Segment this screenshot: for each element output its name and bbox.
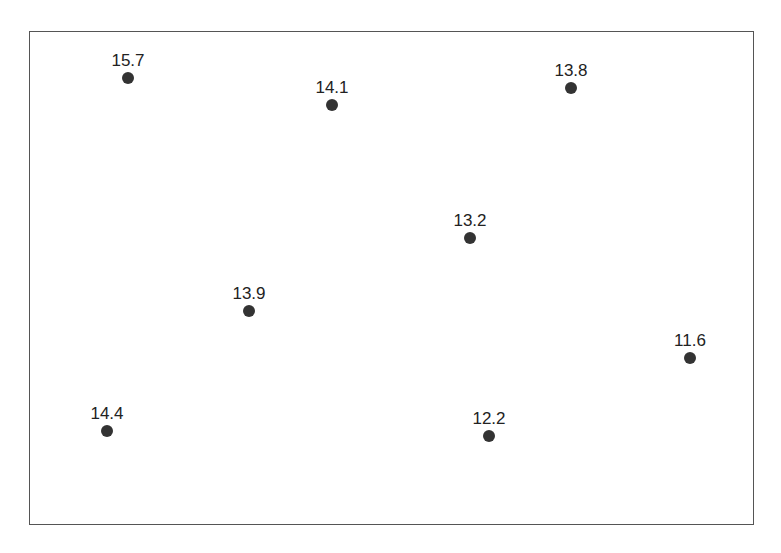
data-point	[101, 425, 113, 437]
data-point	[483, 430, 495, 442]
data-point	[243, 305, 255, 317]
data-label: 12.2	[472, 410, 505, 427]
data-label: 14.4	[90, 405, 123, 422]
data-label: 11.6	[674, 332, 706, 349]
data-label: 13.2	[453, 212, 486, 229]
data-label: 15.7	[111, 52, 144, 69]
data-label: 14.1	[315, 79, 348, 96]
plot-frame	[29, 31, 754, 525]
data-point	[326, 99, 338, 111]
data-point	[684, 352, 696, 364]
data-point	[464, 232, 476, 244]
data-point	[565, 82, 577, 94]
data-label: 13.8	[554, 62, 587, 79]
data-label: 13.9	[232, 285, 265, 302]
data-point	[122, 72, 134, 84]
